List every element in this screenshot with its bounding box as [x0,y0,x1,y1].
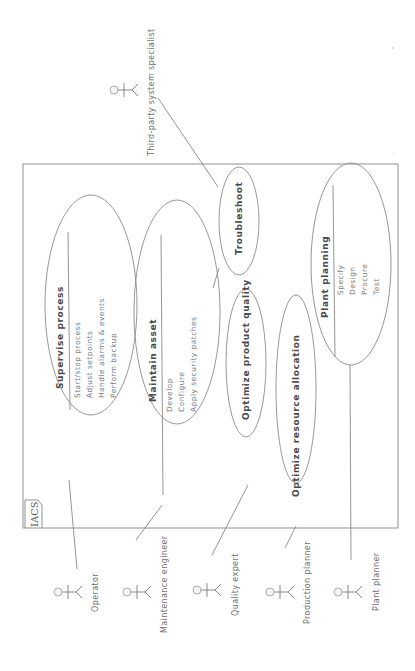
actor-plant-planner[interactable]: Plant planner [334,552,381,611]
use-case-title: Maintain asset [148,319,158,402]
use-case-item: Configure [177,372,186,412]
use-case-item: Apply security patches [189,317,198,412]
use-case-plant-planning[interactable]: Plant planning Specify Design Procure Te… [311,163,391,365]
association-quality [212,485,248,555]
use-case-optimize-product-quality[interactable]: Optimize product quality [226,279,266,437]
use-case-optimize-resource-allocation[interactable]: Optimize resource allocation [276,295,316,497]
use-case-item: Specify [336,264,345,295]
use-case-diagram: IACS Supervise process Start/stop proces… [0,0,415,671]
actor-operator[interactable]: Operator [54,573,100,612]
actor-label: Maintenance engineer [160,535,169,633]
use-case-title: Supervise process [55,286,65,389]
association-plant [350,365,351,560]
stick-figure-icon [193,583,221,597]
actor-maintenance-engineer[interactable]: Maintenance engineer [123,535,169,633]
stick-figure-icon [54,585,82,599]
use-case-item: Start/stop process [73,322,82,398]
use-case-title: Optimize product quality [241,279,251,420]
system-label: IACS [29,501,40,527]
use-case-item: Adjust setpoints [85,331,94,398]
actor-label: Operator [91,573,100,612]
association-thirdparty [158,98,218,187]
use-case-title: Optimize resource allocation [291,334,301,497]
actor-label: Quality expert [231,553,240,616]
actor-label: Plant planner [372,552,381,611]
association-operator [69,480,77,569]
use-case-item: Perform backup [109,333,118,398]
use-case-title: Troubleshoot [234,181,244,255]
stick-figure-icon [334,585,362,599]
actor-label: Production planner [303,541,312,624]
use-case-item: Handle alarms & events [97,298,106,398]
scan-speck [392,152,393,153]
actor-quality-expert[interactable]: Quality expert [193,553,240,616]
use-case-supervise-process[interactable]: Supervise process Start/stop process Adj… [45,195,137,415]
actor-third-party-system-specialist[interactable]: Third-party system specialist [110,29,156,157]
association-maintenance [136,505,162,540]
use-case-title: Plant planning [320,236,330,318]
use-case-item: Procure [360,264,369,295]
association-production [285,526,296,548]
use-case-troubleshoot[interactable]: Troubleshoot [219,167,259,275]
actor-label: Third-party system specialist [147,29,156,157]
use-case-item: Test [372,278,381,296]
stick-figure-icon [266,585,294,599]
use-case-item: Design [348,266,357,295]
stick-figure-icon [123,585,151,599]
compartment-divider [161,235,163,495]
actor-production-planner[interactable]: Production planner [266,541,312,624]
scan-speck [392,47,394,49]
stick-figure-icon [110,83,138,97]
use-case-item: Develop [165,378,174,412]
compartment-divider [68,232,70,410]
use-case-maintain-asset[interactable]: Maintain asset Develop Configure Apply s… [134,200,220,495]
compartment-divider [333,185,335,357]
